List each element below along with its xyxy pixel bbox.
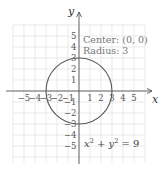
y-tick-label: −3 bbox=[64, 119, 77, 129]
center-annotation: Center: (0, 0) bbox=[83, 34, 148, 45]
y-tick-label: −2 bbox=[64, 108, 77, 118]
equation-label: x2 + y2 = 9 bbox=[84, 137, 139, 149]
y-tick-label: −5 bbox=[64, 141, 77, 151]
eq-rhs: = 9 bbox=[118, 138, 139, 149]
x-tick-label: 4 bbox=[120, 93, 125, 103]
y-tick-label: −1 bbox=[64, 97, 77, 107]
y-tick-label: 2 bbox=[71, 64, 76, 74]
x-tick-label: 2 bbox=[98, 93, 103, 103]
x-tick-label: 1 bbox=[87, 93, 92, 103]
y-tick-label: 1 bbox=[71, 75, 76, 85]
eq-plus: + bbox=[94, 138, 109, 149]
x-tick-labels: −5−4−3−2−112345 bbox=[18, 93, 137, 103]
x-axis-label: x bbox=[152, 93, 159, 106]
y-tick-label: 3 bbox=[71, 53, 76, 63]
y-axis-label: y bbox=[67, 5, 75, 18]
y-tick-label: −4 bbox=[64, 130, 77, 140]
y-tick-label: 5 bbox=[71, 31, 76, 41]
x-tick-label: 5 bbox=[131, 93, 136, 103]
x-tick-label: 3 bbox=[109, 93, 114, 103]
y-tick-label: 4 bbox=[71, 42, 76, 52]
radius-annotation: Radius: 3 bbox=[83, 45, 128, 56]
circle-graph: −5−4−3−2−112345 54321−1−2−3−4−5 x y Cent… bbox=[0, 0, 167, 171]
